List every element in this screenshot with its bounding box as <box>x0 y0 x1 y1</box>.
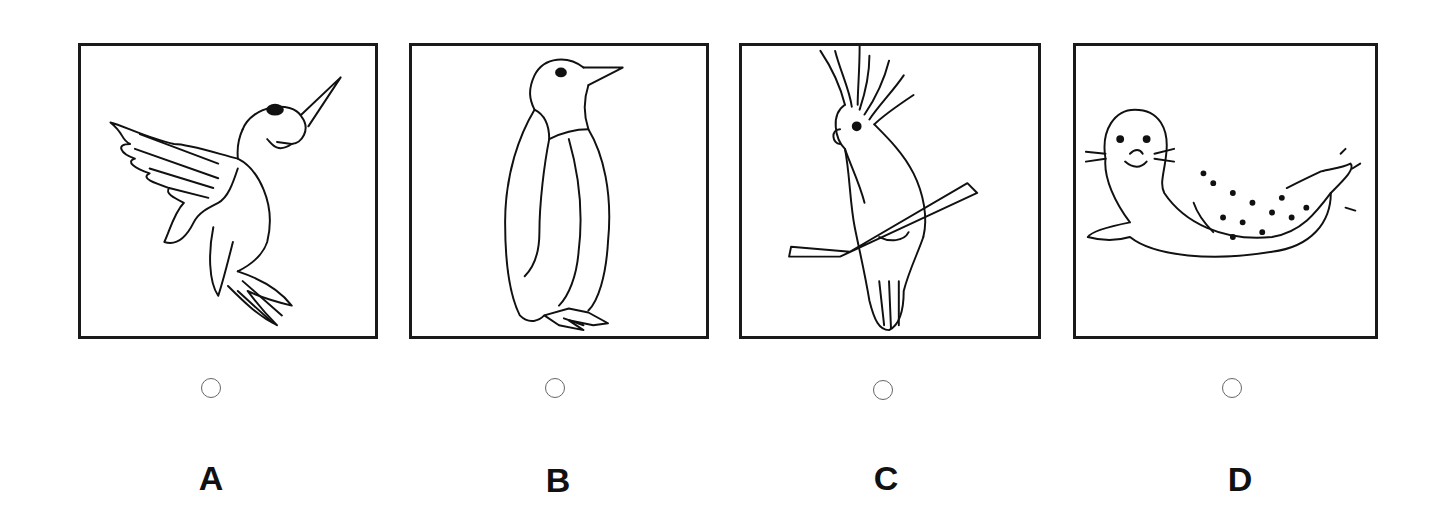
option-b-card[interactable] <box>409 43 709 339</box>
option-d-radio[interactable] <box>1222 378 1242 398</box>
option-d-label: D <box>1210 460 1270 499</box>
option-a-label: A <box>181 459 241 498</box>
option-c-card[interactable] <box>739 43 1041 339</box>
seal-icon <box>1076 46 1375 336</box>
option-d-card[interactable] <box>1073 43 1378 339</box>
penguin-icon <box>412 46 706 336</box>
option-c-radio[interactable] <box>873 380 893 400</box>
option-a-radio[interactable] <box>201 378 221 398</box>
option-a-card[interactable] <box>78 43 378 339</box>
option-c-label: C <box>856 459 916 498</box>
option-b-label: B <box>528 461 588 500</box>
cockatoo-icon <box>742 46 1038 336</box>
option-b-radio[interactable] <box>545 378 565 398</box>
hummingbird-icon <box>81 46 375 336</box>
